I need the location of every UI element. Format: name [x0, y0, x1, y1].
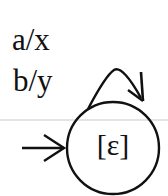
state-label: [ε] [83, 130, 143, 160]
transition-label-b-y: b/y [13, 65, 53, 96]
state-diagram: a/x b/y [ε] [0, 0, 168, 196]
start-arrow-icon [22, 135, 64, 161]
transition-label-a-x: a/x [12, 24, 50, 55]
